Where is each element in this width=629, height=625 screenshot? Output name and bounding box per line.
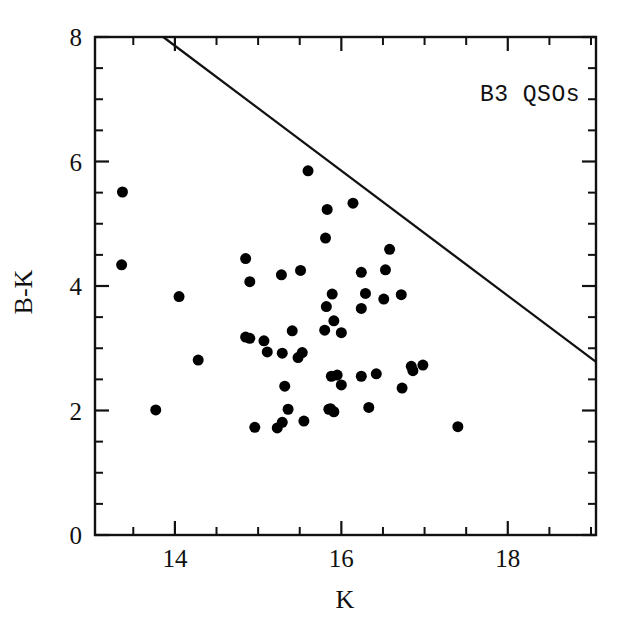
data-point <box>319 325 330 336</box>
plot-annotation-label: B3 QSOs <box>480 82 580 108</box>
axes-frame <box>95 37 596 535</box>
data-point <box>117 187 128 198</box>
y-tick-labels: 02468 <box>70 24 83 549</box>
data-point <box>396 289 407 300</box>
data-point <box>332 370 343 381</box>
data-point <box>262 346 273 357</box>
axis-ticks <box>95 37 596 535</box>
data-point <box>356 371 367 382</box>
data-point <box>328 406 339 417</box>
data-point <box>298 416 309 427</box>
data-point <box>277 348 288 359</box>
data-point <box>295 265 306 276</box>
data-point <box>322 204 333 215</box>
data-point <box>336 327 347 338</box>
y-axis-title: B-K <box>9 269 38 314</box>
data-point <box>347 198 358 209</box>
data-point <box>363 402 374 413</box>
x-axis-title: K <box>336 585 355 614</box>
data-point <box>258 335 269 346</box>
data-point <box>327 289 338 300</box>
data-point <box>321 301 332 312</box>
data-point <box>328 315 339 326</box>
data-point <box>244 333 255 344</box>
data-point <box>277 417 288 428</box>
y-tick-label: 8 <box>70 24 83 51</box>
data-point <box>378 294 389 305</box>
data-point <box>320 233 331 244</box>
data-point <box>276 269 287 280</box>
data-point <box>356 303 367 314</box>
data-point <box>150 404 161 415</box>
plot-canvas: 141618 02468 B3 QSOs K B-K <box>0 0 629 625</box>
data-point <box>384 244 395 255</box>
x-tick-label: 16 <box>329 545 354 572</box>
data-point <box>417 360 428 371</box>
data-point <box>297 347 308 358</box>
data-point <box>249 422 260 433</box>
y-tick-label: 0 <box>70 522 83 549</box>
x-tick-label: 14 <box>162 545 188 572</box>
data-point <box>240 253 251 264</box>
data-point <box>336 379 347 390</box>
plot-frame-rect <box>95 37 596 535</box>
data-point <box>360 288 371 299</box>
scatter-plot-figure: 141618 02468 B3 QSOs K B-K <box>0 0 629 625</box>
y-tick-label: 4 <box>70 273 83 300</box>
data-points-group <box>116 165 463 433</box>
x-tick-labels: 141618 <box>162 545 520 572</box>
data-point <box>287 325 298 336</box>
data-point <box>283 404 294 415</box>
data-point <box>303 165 314 176</box>
data-point <box>452 421 463 432</box>
data-point <box>397 383 408 394</box>
data-point <box>407 365 418 376</box>
data-point <box>116 259 127 270</box>
x-tick-label: 18 <box>495 545 520 572</box>
y-tick-label: 6 <box>70 149 83 176</box>
data-point <box>193 355 204 366</box>
data-point <box>371 368 382 379</box>
data-point <box>279 381 290 392</box>
data-point <box>244 276 255 287</box>
data-point <box>356 267 367 278</box>
data-point <box>174 291 185 302</box>
y-tick-label: 2 <box>70 398 83 425</box>
data-point <box>380 264 391 275</box>
